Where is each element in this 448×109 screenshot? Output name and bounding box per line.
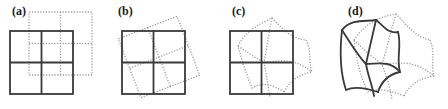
transformation-figure: (a) (b) [0, 0, 448, 109]
dotted-grid-a [29, 12, 92, 75]
panel-a: (a) [0, 0, 104, 109]
solid-grid-d [341, 20, 400, 96]
solid-grid-c [230, 31, 293, 94]
dotted-grid-d [354, 14, 434, 100]
solid-grid-a [10, 31, 73, 94]
panel-label-b: (b) [118, 5, 133, 17]
panel-label-c: (c) [232, 5, 245, 17]
panel-b: (b) [104, 0, 212, 109]
dotted-grid-b [118, 16, 199, 97]
panel-d-graphic [324, 0, 448, 109]
panel-c-graphic [212, 0, 324, 109]
panel-c: (c) [212, 0, 324, 109]
panel-label-a: (a) [12, 5, 26, 17]
panel-label-d: (d) [348, 5, 363, 17]
dotted-grid-c [238, 18, 312, 98]
panel-d: (d) [324, 0, 448, 109]
